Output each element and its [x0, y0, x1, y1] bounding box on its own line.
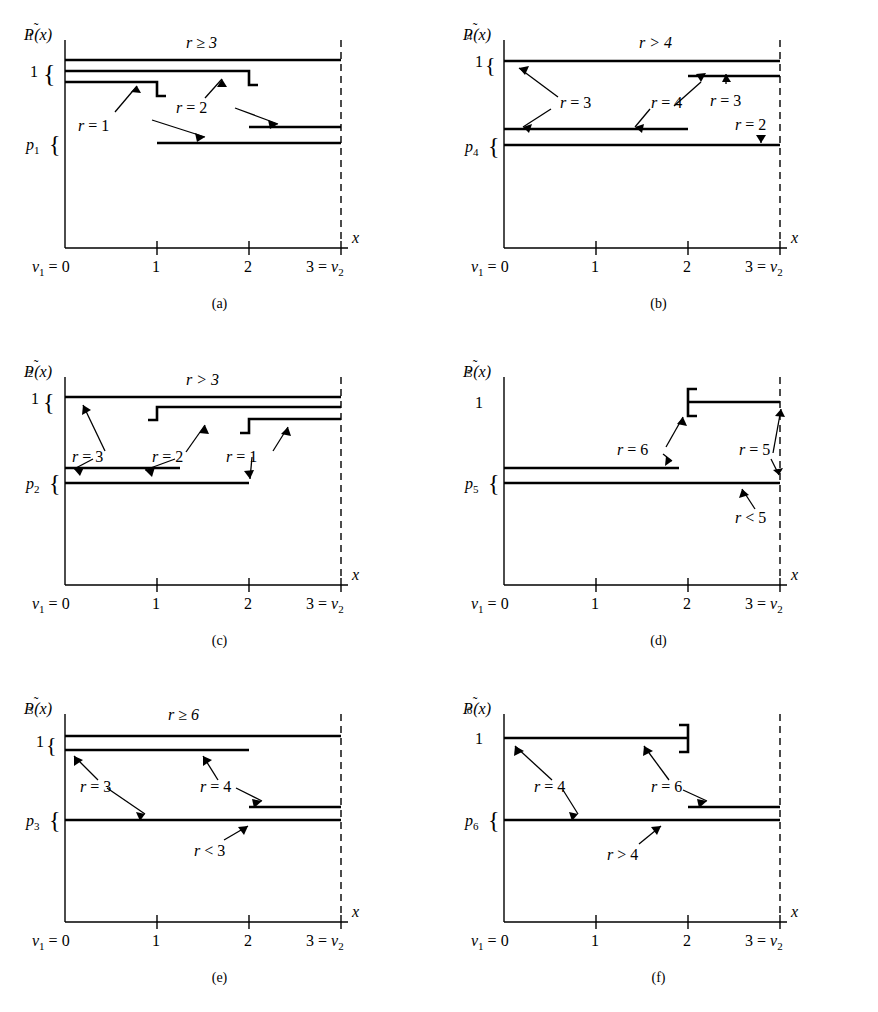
annotation-r-eq-4: r = 4 [534, 778, 565, 795]
panel-caption-e: (e) [0, 970, 439, 986]
tick-label-0: v1 = 0 [32, 595, 70, 615]
arrowhead-r-eq-1-down [244, 470, 254, 479]
panel-caption-b: (b) [439, 296, 878, 312]
tick-label-0: v1 = 0 [471, 932, 509, 952]
y-label-bottom: p5 [464, 475, 479, 495]
y-label-top: 1 [475, 730, 483, 747]
tick-label-1: 1 [152, 932, 160, 949]
panel-title-arg: (x) [473, 363, 491, 381]
leader-r-eq-4-down [236, 788, 262, 801]
tick-label-2: 2 [244, 595, 252, 612]
annotation-r-eq-6: r = 6 [617, 441, 648, 458]
panel-caption-f: (f) [439, 970, 878, 986]
arrowhead-r-eq-4-up [203, 756, 212, 766]
tick-label-3: 3 = v2 [306, 595, 344, 615]
panel-caption-a: (a) [0, 296, 439, 312]
y-label-top: 1 [475, 53, 483, 70]
y-label-bottom: p3 [25, 812, 40, 832]
arrowhead-r-eq-5-up [775, 409, 785, 417]
arrowhead-r-eq-3-hi [696, 73, 706, 82]
top-annotation: r > 3 [186, 371, 219, 388]
top-annotation: r ≥ 3 [186, 34, 217, 51]
annotation-r-eq-2: r = 2 [176, 99, 207, 116]
x-axis-label: x [351, 566, 359, 583]
tick-label-2: 2 [244, 258, 252, 275]
y-brace-bottom: { [488, 470, 500, 496]
panel-title: P̃4(x) [462, 23, 491, 44]
panel-title-arg: (x) [34, 26, 52, 44]
x-axis-label: x [790, 903, 798, 920]
leader-r-eq-3-down [523, 109, 551, 127]
tick-label-3: 3 = v2 [306, 932, 344, 952]
panel-title-arg: (x) [473, 26, 491, 44]
leader-r-eq-3-down [107, 788, 145, 814]
panel-title: P̃5(x) [462, 360, 491, 381]
y-brace-top: { [43, 389, 55, 415]
figure-step-functions: P̃1(x) 1 { p1 { r ≥ 3 r = 1 r = 2 x v1 =… [0, 0, 878, 1012]
panel-title-sub: 1 [28, 30, 34, 42]
arrowhead-r-eq-6-up [643, 746, 653, 756]
panel-e: P̃3(x) 1 { p3 { r ≥ 6 r = 3 r = 4 r < 3 … [0, 674, 439, 1011]
segment-r-eq-1 [65, 82, 166, 96]
y-brace-bottom: { [49, 131, 61, 157]
y-label-top: 1 [36, 733, 44, 750]
y-label-top: 1 [475, 394, 483, 411]
panel-caption-d: (d) [439, 633, 878, 649]
panel-title-arg: (x) [473, 700, 491, 718]
annotation-r-eq-4: r = 4 [200, 778, 231, 795]
y-label-top: 1 [31, 390, 39, 407]
annotation-r-eq-1: r = 1 [226, 448, 257, 465]
y-brace-bottom: { [488, 807, 500, 833]
x-axis-label: x [351, 229, 359, 246]
tick-label-0: v1 = 0 [32, 932, 70, 952]
panel-title-sub: 2 [28, 367, 34, 379]
arrowhead-r-eq-4-up [514, 746, 524, 756]
tick-label-2: 2 [244, 932, 252, 949]
tick-label-1: 1 [591, 258, 599, 275]
tick-label-1: 1 [152, 258, 160, 275]
panel-title-arg: (x) [34, 700, 52, 718]
arrowhead-r-eq-5-down [773, 468, 783, 475]
panel-title-sub: 5 [467, 367, 473, 379]
tick-label-3: 3 = v2 [745, 932, 783, 952]
y-label-bottom: p4 [464, 138, 479, 158]
panel-title-sub: 3 [28, 704, 34, 716]
tick-label-3: 3 = v2 [745, 595, 783, 615]
tick-label-2: 2 [683, 258, 691, 275]
tick-label-1: 1 [152, 595, 160, 612]
panel-a: P̃1(x) 1 { p1 { r ≥ 3 r = 1 r = 2 x v1 =… [0, 0, 439, 337]
panel-title: P̃3(x) [23, 697, 52, 718]
tick-label-2: 2 [683, 595, 691, 612]
y-label-bottom: p1 [25, 136, 40, 156]
panel-title: P̃2(x) [23, 360, 52, 381]
x-axis-label: x [790, 566, 798, 583]
annotation-r-eq-4: r = 4 [651, 94, 682, 111]
leader-r-eq-4 [635, 109, 650, 127]
panel-caption-c: (c) [0, 633, 439, 649]
panel-b: P̃4(x) 1 { p4 { r > 4 r = 3 r = 4 r = 3 … [439, 0, 878, 337]
annotation-r-eq-5: r = 5 [739, 441, 770, 458]
annotation-r-lt-3: r < 3 [194, 842, 225, 859]
annotation-r-eq-3-hi: r = 3 [710, 92, 741, 109]
leader-r-eq-2-up [205, 79, 222, 98]
tick-label-1: 1 [591, 595, 599, 612]
tick-label-2: 2 [683, 932, 691, 949]
panel-title: P̃1(x) [23, 23, 52, 44]
tick-label-0: v1 = 0 [471, 595, 509, 615]
y-brace-bottom: { [49, 807, 61, 833]
tick-label-0: v1 = 0 [32, 258, 70, 278]
panel-d: P̃5(x) 1 p5 { r = 6 r = 5 r < 5 x v1 = 0… [439, 337, 878, 674]
y-label-bottom: p2 [25, 475, 40, 495]
top-annotation: r > 4 [639, 34, 672, 51]
annotation-r-eq-3: r = 3 [560, 94, 591, 111]
segment-r-eq-1 [240, 419, 341, 433]
annotation-r-eq-6: r = 6 [651, 778, 682, 795]
annotation-r-eq-3: r = 3 [72, 448, 103, 465]
annotation-r-eq-2: r = 2 [152, 448, 183, 465]
panel-title-arg: (x) [34, 363, 52, 381]
panel-title-sub: 6 [467, 704, 473, 716]
annotation-r-eq-2: r = 2 [735, 116, 766, 133]
y-label-bottom: p6 [464, 812, 479, 832]
arrowhead-r-eq-2 [756, 135, 766, 143]
y-brace-top: { [46, 732, 57, 757]
